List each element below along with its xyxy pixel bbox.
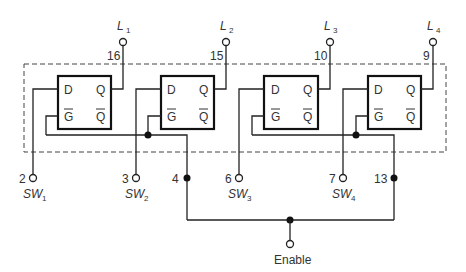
pin-7: 7 xyxy=(329,172,336,186)
latch-2-qbar-label: Q xyxy=(199,110,208,124)
pin-15: 15 xyxy=(210,49,224,63)
latch-3-q-label: Q xyxy=(303,83,312,97)
pin-6: 6 xyxy=(225,172,232,186)
latch-3-g-label: G xyxy=(271,110,280,124)
output-label-l3: L xyxy=(324,19,331,33)
output-label-l2: L xyxy=(220,19,227,33)
switch-label-sw2: SW xyxy=(125,187,146,201)
output-terminal-l4 xyxy=(430,39,437,46)
switch-terminal-sw4 xyxy=(340,175,347,182)
latch-2-q-label: Q xyxy=(199,83,208,97)
latch-3-qbar-label: Q xyxy=(303,110,312,124)
pin-9: 9 xyxy=(423,49,430,63)
pin-13: 13 xyxy=(374,172,388,186)
latch-4-q-label: Q xyxy=(406,83,415,97)
output-sub-l1: 1 xyxy=(126,26,131,35)
switch-sub-sw2: 2 xyxy=(144,194,149,203)
switch-terminal-sw3 xyxy=(236,175,243,182)
switch-sub-sw1: 1 xyxy=(42,194,47,203)
output-sub-l4: 4 xyxy=(436,26,441,35)
output-terminal-l2 xyxy=(223,39,230,46)
latch-4-qbar-label: Q xyxy=(406,110,415,124)
latch-1-d-label: D xyxy=(64,83,73,97)
pin-3: 3 xyxy=(122,172,129,186)
output-terminal-l1 xyxy=(120,39,127,46)
latch-1-g-label: G xyxy=(64,110,73,124)
junction-g2 xyxy=(145,132,152,139)
switch-label-sw1: SW xyxy=(23,187,44,201)
junction-g4 xyxy=(353,132,360,139)
enable-terminal xyxy=(287,241,294,248)
latch-schematic: D G Q Q L 1 16 2 SW 1 D G Q Q L 2 15 xyxy=(0,0,466,272)
pin-2: 2 xyxy=(19,172,26,186)
latch-4-d-label: D xyxy=(374,83,383,97)
switch-terminal-sw2 xyxy=(133,175,140,182)
latch-1: D G Q Q L 1 16 2 SW 1 xyxy=(19,19,131,203)
latch-4-g-label: G xyxy=(374,110,383,124)
output-label-l4: L xyxy=(427,19,434,33)
latch-3: D G Q Q L 3 10 6 SW 3 xyxy=(225,19,338,203)
latch-1-q-label: Q xyxy=(96,83,105,97)
output-sub-l3: 3 xyxy=(333,26,338,35)
latch-2-g-label: G xyxy=(167,110,176,124)
switch-sub-sw3: 3 xyxy=(247,194,252,203)
latch-2-d-label: D xyxy=(167,83,176,97)
pin-16: 16 xyxy=(107,49,121,63)
switch-terminal-sw1 xyxy=(30,175,37,182)
output-sub-l2: 2 xyxy=(229,26,234,35)
latch-3-d-label: D xyxy=(271,83,280,97)
pin-4-node xyxy=(184,175,191,182)
switch-sub-sw4: 4 xyxy=(351,194,356,203)
switch-label-sw3: SW xyxy=(228,187,249,201)
latch-1-qbar-label: Q xyxy=(96,110,105,124)
pin-4: 4 xyxy=(172,172,179,186)
switch-label-sw4: SW xyxy=(332,187,353,201)
enable-label: Enable xyxy=(274,253,312,267)
output-label-l1: L xyxy=(117,19,124,33)
pin-10: 10 xyxy=(314,49,328,63)
output-terminal-l3 xyxy=(327,39,334,46)
pin-13-node xyxy=(391,175,398,182)
